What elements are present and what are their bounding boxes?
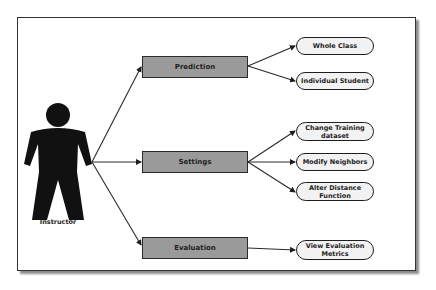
category-prediction[interactable]: Prediction bbox=[142, 56, 248, 78]
person-icon bbox=[22, 102, 94, 224]
category-settings[interactable]: Settings bbox=[142, 151, 248, 173]
use-case-view-evaluation-metrics[interactable]: View Evaluation Metrics bbox=[296, 240, 374, 260]
use-case-whole-class[interactable]: Whole Class bbox=[296, 37, 374, 55]
use-case-alter-distance-function[interactable]: Alter Distance Function bbox=[296, 182, 374, 201]
use-case-individual-student[interactable]: Individual Student bbox=[296, 72, 374, 90]
category-evaluation[interactable]: Evaluation bbox=[142, 237, 248, 259]
use-case-change-training-dataset[interactable]: Change Training dataset bbox=[296, 122, 374, 141]
use-case-modify-neighbors[interactable]: Modify Neighbors bbox=[296, 153, 374, 171]
actor-label: Instructor bbox=[22, 218, 94, 226]
